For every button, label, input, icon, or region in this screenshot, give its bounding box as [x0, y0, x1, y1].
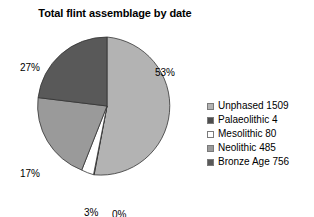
legend-swatch-palaeolithic	[207, 117, 214, 124]
legend-swatch-unphased	[207, 103, 214, 110]
slice-label-neolithic: 17%	[20, 168, 40, 179]
slice-label-bronze-age: 27%	[20, 62, 40, 73]
pie-plot-area: 53% 0% 3% 17% 27%	[0, 20, 205, 217]
legend-label-bronze-age: Bronze Age 756	[218, 157, 289, 167]
legend-swatch-bronze-age	[207, 159, 214, 166]
legend-swatch-mesolithic	[207, 131, 214, 138]
slice-label-palaeolithic: 0%	[112, 209, 126, 217]
slice-label-mesolithic: 3%	[84, 207, 98, 217]
slice-label-unphased: 53%	[155, 67, 175, 78]
legend-label-mesolithic: Mesolithic 80	[218, 129, 276, 139]
chart-legend: Unphased 1509 Palaeolithic 4 Mesolithic …	[207, 99, 314, 169]
legend-item-mesolithic: Mesolithic 80	[207, 127, 314, 141]
chart-title: Total flint assemblage by date	[0, 7, 230, 19]
legend-label-unphased: Unphased 1509	[218, 101, 289, 111]
pie-chart: Total flint assemblage by date 53% 0% 3%…	[0, 0, 314, 217]
legend-item-unphased: Unphased 1509	[207, 99, 314, 113]
pie-slice-bronze-age	[38, 37, 107, 106]
legend-label-neolithic: Neolithic 485	[218, 143, 276, 153]
legend-item-bronze-age: Bronze Age 756	[207, 155, 314, 169]
legend-item-palaeolithic: Palaeolithic 4	[207, 113, 314, 127]
legend-swatch-neolithic	[207, 145, 214, 152]
legend-label-palaeolithic: Palaeolithic 4	[218, 115, 277, 125]
legend-item-neolithic: Neolithic 485	[207, 141, 314, 155]
